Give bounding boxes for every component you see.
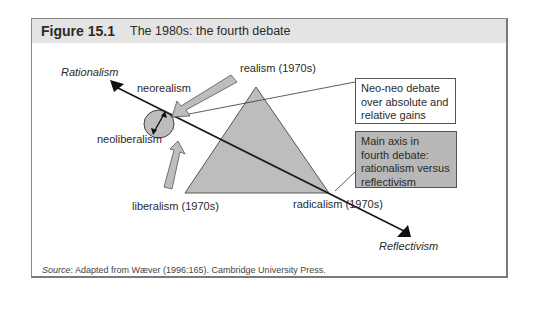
label-neoliberalism: neoliberalism (97, 133, 162, 145)
callout-main-axis: Main axis in fourth debate: rationalism … (355, 131, 457, 188)
callout-line: Main axis in (361, 135, 451, 149)
callout-line: fourth debate: (361, 149, 451, 163)
source-text: : Adapted from Wæver (1996:165). Cambrid… (71, 265, 326, 275)
callout-line: rationalism versus (361, 162, 451, 176)
theory-triangle (185, 87, 329, 193)
callout-neo-neo-debate: Neo-neo debate over absolute and relativ… (355, 78, 456, 124)
label-realism: realism (1970s) (240, 62, 316, 74)
axis-label-rationalism: Rationalism (61, 66, 118, 78)
source-note: Source: Adapted from Wæver (1996:165). C… (42, 265, 326, 275)
source-label: Source (42, 265, 71, 275)
label-liberalism: liberalism (1970s) (132, 200, 219, 212)
axis-label-reflectivism: Reflectivism (379, 240, 438, 252)
reflectivism-arrowhead-icon (397, 225, 411, 237)
leader-line-main-axis (335, 172, 355, 191)
callout-line: over absolute and (361, 96, 450, 110)
callout-line: Neo-neo debate (361, 82, 450, 96)
liberalism-block-arrow-icon (164, 141, 185, 189)
label-radicalism: radicalism (1970s) (293, 198, 383, 210)
callout-line: reflectivism (361, 176, 451, 190)
callout-line: relative gains (361, 109, 450, 123)
label-neorealism: neorealism (137, 82, 191, 94)
